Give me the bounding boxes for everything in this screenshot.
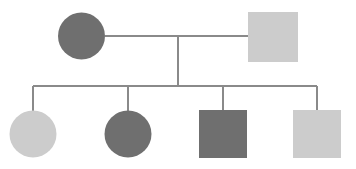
pedigree-chart bbox=[0, 0, 356, 169]
individual-child2-affected-female[interactable] bbox=[105, 111, 152, 158]
individual-child4-unaffected-male[interactable] bbox=[293, 110, 341, 158]
individual-father-unaffected-male[interactable] bbox=[248, 12, 298, 62]
individual-mother-affected-female[interactable] bbox=[58, 13, 105, 60]
individual-child1-unaffected-female[interactable] bbox=[10, 111, 57, 158]
individual-child3-affected-male[interactable] bbox=[199, 110, 247, 158]
pedigree-canvas bbox=[0, 0, 356, 169]
